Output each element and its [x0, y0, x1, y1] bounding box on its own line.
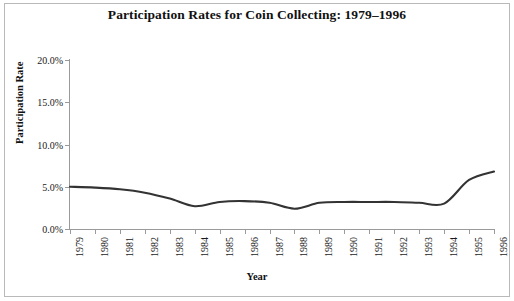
x-tick-label-1993: 1993 — [423, 237, 434, 257]
x-tick-label-1992: 1992 — [398, 237, 409, 257]
x-tick-label-1989: 1989 — [323, 237, 334, 257]
x-tick-1988 — [294, 229, 295, 234]
x-tick-label-1990: 1990 — [348, 237, 359, 257]
x-tick-label-1996: 1996 — [498, 237, 509, 257]
x-tick-label-1982: 1982 — [149, 237, 160, 257]
series-participation-rate — [70, 60, 494, 229]
x-tick-1981 — [120, 229, 121, 234]
x-tick-label-1995: 1995 — [473, 237, 484, 257]
x-tick-1980 — [95, 229, 96, 234]
chart-title: Participation Rates for Coin Collecting:… — [0, 7, 514, 23]
x-tick-label-1981: 1981 — [124, 237, 135, 257]
x-tick-1995 — [469, 229, 470, 234]
series-line — [70, 172, 494, 209]
x-tick-label-1980: 1980 — [99, 237, 110, 257]
y-tick-label-15-0: 15.0% — [37, 97, 63, 108]
plot-area: 0.0%5.0%10.0%15.0%20.0% 1979198019811982… — [70, 60, 494, 229]
x-tick-1985 — [220, 229, 221, 234]
x-tick-1987 — [270, 229, 271, 234]
x-tick-label-1986: 1986 — [249, 237, 260, 257]
y-axis-title: Participation Rate — [14, 61, 25, 144]
x-tick-label-1984: 1984 — [199, 237, 210, 257]
x-tick-label-1994: 1994 — [448, 237, 459, 257]
chart-figure: Participation Rates for Coin Collecting:… — [0, 0, 514, 301]
y-tick-label-0-0: 0.0% — [42, 224, 63, 235]
x-tick-1983 — [170, 229, 171, 234]
y-tick-label-10-0: 10.0% — [37, 139, 63, 150]
x-tick-1993 — [419, 229, 420, 234]
x-tick-1982 — [145, 229, 146, 234]
x-tick-1979 — [70, 229, 71, 234]
x-tick-1992 — [394, 229, 395, 234]
x-tick-label-1985: 1985 — [224, 237, 235, 257]
x-tick-label-1988: 1988 — [298, 237, 309, 257]
x-tick-1984 — [195, 229, 196, 234]
x-tick-label-1987: 1987 — [274, 237, 285, 257]
y-tick-label-20-0: 20.0% — [37, 55, 63, 66]
x-tick-1996 — [494, 229, 495, 234]
x-axis-line — [69, 229, 495, 230]
x-tick-1994 — [444, 229, 445, 234]
x-tick-1986 — [245, 229, 246, 234]
x-tick-1991 — [369, 229, 370, 234]
x-axis-title: Year — [0, 271, 514, 282]
x-tick-label-1983: 1983 — [174, 237, 185, 257]
y-tick-label-5-0: 5.0% — [42, 181, 63, 192]
x-tick-label-1979: 1979 — [74, 237, 85, 257]
x-tick-1989 — [319, 229, 320, 234]
x-tick-label-1991: 1991 — [373, 237, 384, 257]
x-tick-1990 — [344, 229, 345, 234]
